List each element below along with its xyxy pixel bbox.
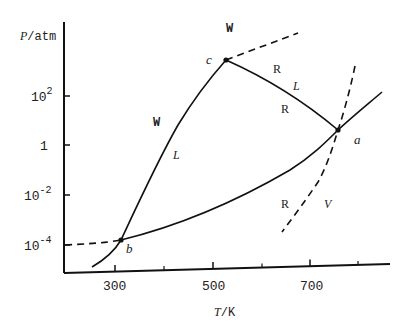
region-label-r-upper: R — [273, 62, 281, 76]
x-tick-label-700: 700 — [300, 279, 323, 294]
point-label-a: a — [354, 132, 361, 147]
x-tick-labels: 300 500 700 — [103, 279, 323, 294]
region-label-w-left: W — [153, 116, 161, 130]
phase-boundaries — [92, 60, 382, 267]
region-label-r-lower: R — [281, 197, 289, 211]
y-tick-label-1e2: 102 — [31, 86, 53, 105]
point-b-marker — [118, 237, 123, 242]
curve-c-to-a — [226, 60, 338, 130]
line-label-l-left: L — [172, 148, 180, 162]
y-tick-label-1e-2: 10-2 — [24, 185, 52, 204]
line-label-l-upper: L — [292, 79, 300, 93]
x-tick-label-500: 500 — [202, 279, 225, 294]
region-label-w-top: W — [226, 22, 234, 36]
region-label-v: V — [324, 197, 333, 211]
region-label-r-mid: R — [281, 102, 289, 116]
dashed-extension-c — [226, 33, 298, 60]
y-tick-label-1e-4: 10-4 — [24, 235, 52, 254]
curve-below-b — [92, 240, 121, 267]
phase-diagram: 102 1 10-2 10-4 P/atm T/K 300 500 700 a … — [0, 0, 408, 336]
point-label-b: b — [126, 241, 133, 256]
points — [118, 57, 340, 242]
x-axis — [64, 264, 390, 273]
x-tick-label-300: 300 — [103, 279, 126, 294]
region-labels: W R L R W L R V — [153, 22, 333, 211]
point-a-marker — [335, 127, 340, 132]
y-tick-labels: 102 1 10-2 10-4 — [24, 86, 53, 254]
y-tick-label-1: 1 — [40, 139, 48, 154]
point-c-marker — [223, 57, 228, 62]
x-axis-label: T/K — [214, 305, 236, 320]
point-labels: a b c — [126, 52, 361, 256]
point-label-c: c — [206, 52, 212, 67]
dashed-extension-b — [65, 240, 121, 245]
y-axis-label: P/atm — [19, 29, 56, 44]
